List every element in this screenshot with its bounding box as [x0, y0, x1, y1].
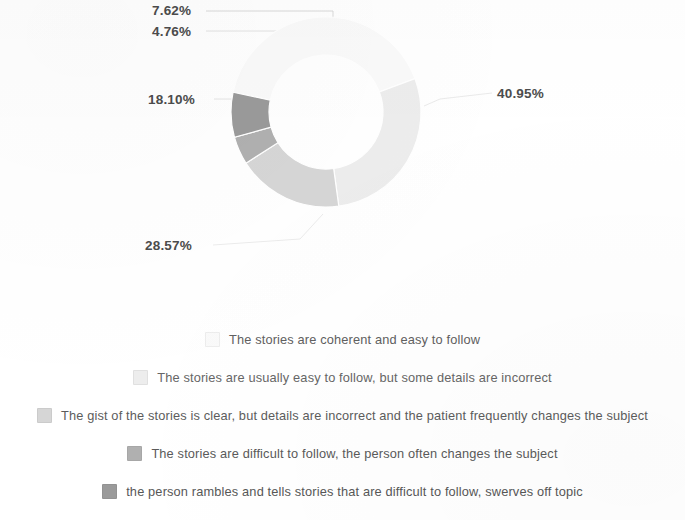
donut-chart-area: 40.95% 28.57% 18.10% 4.76% 7.62%: [0, 0, 685, 300]
legend-swatch-1: [133, 370, 148, 385]
slice-label-2: 18.10%: [148, 92, 195, 107]
slice-label-0: 40.95%: [497, 86, 544, 101]
legend-swatch-0: [205, 332, 220, 347]
legend-swatch-3: [127, 446, 142, 461]
legend-swatch-4: [102, 484, 117, 499]
legend-label-0: The stories are coherent and easy to fol…: [229, 332, 480, 347]
legend-item-2[interactable]: The gist of the stories is clear, but de…: [0, 396, 685, 434]
legend-item-1[interactable]: The stories are usually easy to follow, …: [0, 358, 685, 396]
legend-label-1: The stories are usually easy to follow, …: [157, 370, 552, 385]
legend-swatch-2: [37, 408, 52, 423]
legend-label-4: the person rambles and tells stories tha…: [126, 484, 583, 499]
legend-label-2: The gist of the stories is clear, but de…: [61, 408, 648, 423]
slice-label-1: 28.57%: [145, 238, 192, 253]
donut-slice-0[interactable]: [233, 17, 415, 100]
donut-svg: [222, 8, 430, 216]
legend-item-3[interactable]: The stories are difficult to follow, the…: [0, 434, 685, 472]
slice-label-4: 7.62%: [152, 3, 191, 18]
chart-legend: The stories are coherent and easy to fol…: [0, 320, 685, 510]
slice-label-3: 4.76%: [152, 24, 191, 39]
donut-slice-group: [231, 17, 421, 207]
donut-graphic: [222, 8, 430, 216]
legend-label-3: The stories are difficult to follow, the…: [151, 446, 557, 461]
legend-item-4[interactable]: the person rambles and tells stories tha…: [0, 472, 685, 510]
legend-item-0[interactable]: The stories are coherent and easy to fol…: [0, 320, 685, 358]
donut-slice-1[interactable]: [334, 79, 421, 207]
